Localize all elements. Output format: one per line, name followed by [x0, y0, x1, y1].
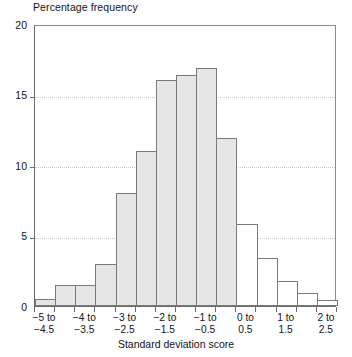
y-axis-tick — [30, 97, 35, 98]
histogram-bar — [236, 224, 257, 306]
y-axis-tick-label: 15 — [15, 89, 27, 101]
histogram-bar — [116, 193, 137, 306]
x-axis-tick-label-line2: 2.5 — [317, 324, 334, 336]
x-axis-tick-label-line2: −1.5 — [153, 324, 176, 336]
x-axis-tick-label-line1: −1 to — [194, 312, 217, 323]
x-axis-tick-label-line1: −5 to — [33, 312, 56, 323]
x-axis-tick-label-line1: −3 to — [113, 312, 136, 323]
histogram-bar — [256, 258, 277, 306]
histogram-bar — [75, 285, 96, 306]
x-axis-tick-label-line1: −2 to — [153, 312, 176, 323]
histogram-figure: Percentage frequency 05101520 −5 to−4.5−… — [0, 0, 352, 357]
histogram-bar — [136, 151, 157, 306]
y-axis-labels: 05101520 — [0, 0, 27, 357]
histogram-bar — [95, 264, 116, 306]
x-axis-tick-label-line2: −3.5 — [73, 324, 96, 336]
x-axis-tick-label-line2: −0.5 — [194, 324, 217, 336]
x-axis-tick-label: −4 to−3.5 — [73, 312, 96, 335]
y-axis-tick-label: 20 — [15, 19, 27, 31]
x-axis-tick-label-line1: 0 to — [237, 312, 254, 323]
histogram-bar — [216, 138, 237, 306]
plot-inner — [35, 26, 335, 306]
histogram-bar — [156, 80, 177, 306]
x-axis-tick-label-line2: −4.5 — [33, 324, 56, 336]
x-axis-tick-label-line2: 0.5 — [237, 324, 254, 336]
histogram-bar — [196, 68, 217, 306]
histogram-bar — [317, 300, 338, 306]
x-axis-labels: −5 to−4.5−4 to−3.5−3 to−2.5−2 to−1.5−1 t… — [0, 312, 352, 338]
histogram-bar — [55, 285, 76, 306]
x-axis-title: Standard deviation score — [0, 338, 352, 350]
y-axis-tick-label: 5 — [21, 230, 27, 242]
y-axis-tick-label: 0 — [21, 301, 27, 313]
plot-area — [34, 25, 336, 307]
x-axis-tick-label-line1: 1 to — [277, 312, 294, 323]
x-axis-tick-label: −1 to−0.5 — [194, 312, 217, 335]
y-axis-tick — [30, 238, 35, 239]
x-axis-tick-label: 0 to0.5 — [237, 312, 254, 335]
x-axis-tick-label-line2: −2.5 — [113, 324, 136, 336]
x-axis-tick-label-line1: 2 to — [317, 312, 334, 323]
histogram-bar — [277, 281, 298, 306]
histogram-bar — [297, 293, 318, 306]
y-axis-tick — [30, 167, 35, 168]
x-axis-tick-label: −5 to−4.5 — [33, 312, 56, 335]
x-axis-tick-label-line2: 1.5 — [277, 324, 294, 336]
y-axis-tick-label: 10 — [15, 160, 27, 172]
x-axis-tick-label: −3 to−2.5 — [113, 312, 136, 335]
x-axis-tick-label: −2 to−1.5 — [153, 312, 176, 335]
y-axis-title: Percentage frequency — [33, 1, 138, 13]
x-axis-tick-label-line1: −4 to — [73, 312, 96, 323]
histogram-bar — [35, 299, 56, 306]
x-axis-tick-label: 2 to2.5 — [317, 312, 334, 335]
x-axis-tick-label: 1 to1.5 — [277, 312, 294, 335]
histogram-bar — [176, 75, 197, 306]
